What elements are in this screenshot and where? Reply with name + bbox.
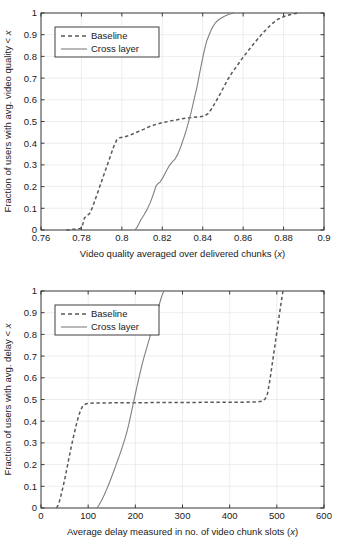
y-tick-label: 0.5 <box>24 394 37 405</box>
y-tick-label: 0 <box>32 502 37 513</box>
y-tick-label: 0.2 <box>24 459 37 470</box>
y-tick-label: 0.9 <box>24 29 37 40</box>
y-tick-label: 0.5 <box>24 116 37 127</box>
y-tick-label: 0.8 <box>24 329 37 340</box>
x-tick-label: 0.88 <box>274 232 293 243</box>
chart-panel-top: 0.760.780.80.820.840.860.880.9 00.10.20.… <box>0 0 337 278</box>
bottom-legend: BaselineCross layer <box>55 305 159 335</box>
y-tick-label: 0.3 <box>24 437 37 448</box>
x-tick-label: 600 <box>316 510 332 521</box>
legend-label-cross-layer: Cross layer <box>91 321 139 332</box>
y-tick-label: 0.6 <box>24 94 37 105</box>
x-tick-label: 0.9 <box>317 232 330 243</box>
y-axis-title: Fraction of users with avg. video qualit… <box>2 29 13 212</box>
top-chart-svg: 0.760.780.80.820.840.860.880.9 00.10.20.… <box>0 0 337 278</box>
bottom-chart-background <box>0 278 337 556</box>
legend-label-baseline: Baseline <box>91 308 127 319</box>
x-axis-title: Video quality averaged over delivered ch… <box>80 248 285 259</box>
x-tick-label: 300 <box>175 510 191 521</box>
x-tick-label: 0.82 <box>153 232 172 243</box>
y-tick-label: 0.4 <box>24 416 37 427</box>
x-tick-label: 0.8 <box>115 232 128 243</box>
x-tick-label: 400 <box>222 510 238 521</box>
y-tick-label: 0.4 <box>24 138 37 149</box>
bottom-chart-svg: 0100200300400500600 00.10.20.30.40.50.60… <box>0 278 337 556</box>
y-tick-label: 0.9 <box>24 307 37 318</box>
y-tick-label: 0.6 <box>24 372 37 383</box>
y-tick-label: 0.3 <box>24 159 37 170</box>
y-tick-label: 0.1 <box>24 481 37 492</box>
y-tick-label: 0.7 <box>24 351 37 362</box>
chart-panel-bottom: 0100200300400500600 00.10.20.30.40.50.60… <box>0 278 337 556</box>
y-tick-label: 0.8 <box>24 51 37 62</box>
y-tick-label: 1 <box>32 7 37 18</box>
x-tick-label: 0.78 <box>72 232 91 243</box>
x-tick-label: 0.86 <box>234 232 253 243</box>
x-tick-label: 200 <box>127 510 143 521</box>
y-tick-label: 0.7 <box>24 73 37 84</box>
top-legend: BaselineCross layer <box>55 27 159 57</box>
y-tick-label: 1 <box>32 285 37 296</box>
legend-label-baseline: Baseline <box>91 30 127 41</box>
x-tick-label: 100 <box>80 510 96 521</box>
x-tick-label: 0 <box>38 510 43 521</box>
y-tick-label: 0.1 <box>24 203 37 214</box>
x-tick-label: 0.84 <box>193 232 212 243</box>
x-axis-title: Average delay measured in no. of video c… <box>67 526 298 537</box>
legend-label-cross-layer: Cross layer <box>91 43 139 54</box>
y-axis-title: Fraction of users with avg. delay < x <box>2 322 13 475</box>
y-tick-label: 0.2 <box>24 181 37 192</box>
x-tick-label: 500 <box>269 510 285 521</box>
y-tick-label: 0 <box>32 224 37 235</box>
